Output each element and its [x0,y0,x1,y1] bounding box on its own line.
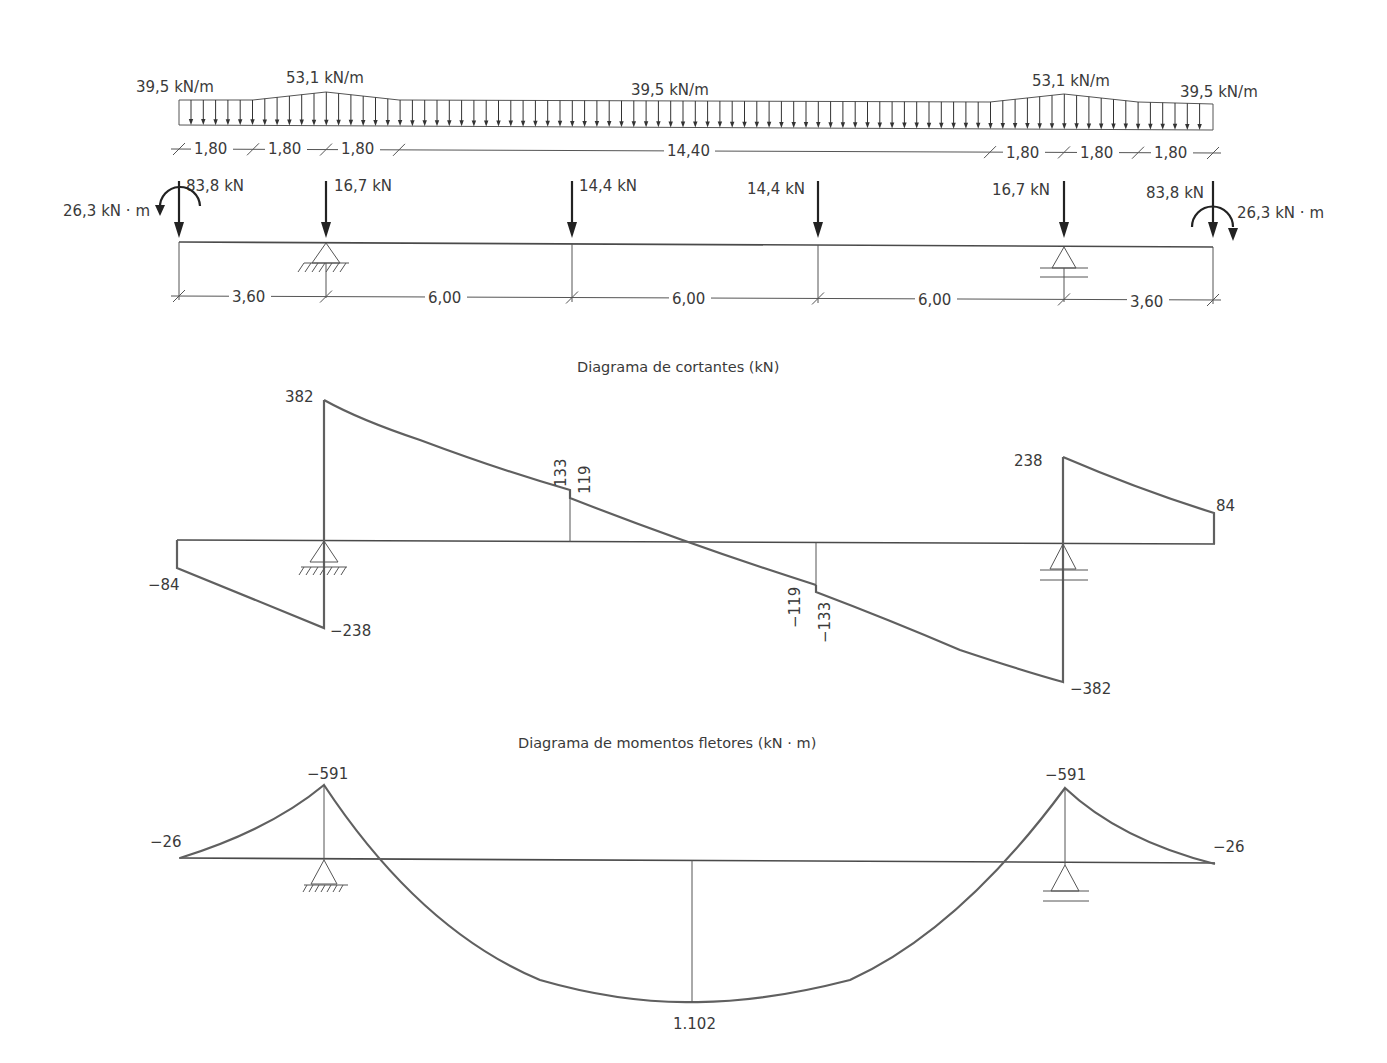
moment-curve [180,785,1215,1002]
shear-curve-right [1063,457,1214,544]
shear-curve-left [177,400,324,628]
shear-value-label: 84 [1216,497,1235,515]
moment-arrow-right-icon [1228,228,1238,241]
moment-label-right: 26,3 kN · m [1237,204,1324,222]
bottom-dimension-label: 3,60 [232,288,265,306]
load-diagram: 39,5 kN/m53,1 kN/m39,5 kN/m53,1 kN/m39,5… [63,69,1324,312]
shear-value-label: 133 [552,458,570,487]
point-load-label: 16,7 kN [992,181,1050,199]
shear-diagram-title: Diagrama de cortantes (kN) [577,359,779,375]
point-load-label: 14,4 kN [579,177,637,195]
shear-value-label: −119 [786,587,804,628]
moment-value-label: −591 [1045,766,1086,784]
shear-value-label: −84 [148,576,180,594]
bottom-dimension-label: 3,60 [1130,293,1163,311]
point-load-label: 16,7 kN [334,177,392,195]
beam-analysis-diagram: 39,5 kN/m53,1 kN/m39,5 kN/m53,1 kN/m39,5… [0,0,1387,1063]
top-dimension-label: 1,80 [268,140,301,158]
moment-diagram-title: Diagrama de momentos fletores (kN · m) [518,735,816,751]
shear-value-label: 119 [576,465,594,494]
shear-diagram: Diagrama de cortantes (kN) 3821331192388… [148,359,1235,698]
moment-value-label: −591 [307,765,348,783]
distributed-load-label: 53,1 kN/m [286,69,364,87]
shear-value-label: 382 [285,388,314,406]
distributed-load-labels: 39,5 kN/m53,1 kN/m39,5 kN/m53,1 kN/m39,5… [136,69,1258,101]
roller-support-icon [1043,865,1089,901]
shear-value-label: −238 [330,622,371,640]
top-dimension-label: 1,80 [1080,144,1113,162]
top-dimension-label: 1,80 [1006,144,1039,162]
moment-arrow-left-icon [155,205,165,216]
shear-value-label: −382 [1070,680,1111,698]
moment-axis [179,858,1215,863]
top-dimension-label: 1,80 [1154,144,1187,162]
load-baseline [179,125,1213,130]
beam-line [179,242,1213,247]
bottom-dimension-label: 6,00 [918,291,951,309]
bottom-dimension-label: 6,00 [672,290,705,308]
moment-diagram: Diagrama de momentos fletores (kN · m) −… [150,735,1245,1033]
shear-curve-mid-2 [816,457,1063,682]
roller-support-icon [1040,247,1088,302]
moment-value-label: −26 [1213,838,1245,856]
point-loads: 83,8 kN16,7 kN14,4 kN14,4 kN16,7 kN83,8 … [174,177,1218,238]
distributed-load-label: 39,5 kN/m [631,81,709,99]
top-dimension-line: 1,801,801,8014,401,801,801,80 [171,139,1221,163]
pinned-support-icon [298,243,349,298]
distributed-load-label: 53,1 kN/m [1032,72,1110,90]
moment-value-label: 1.102 [673,1015,716,1033]
shear-value-label: 238 [1014,452,1043,470]
shear-axis [177,540,1215,544]
pinned-support-icon [303,860,348,892]
moment-value-labels: −591−591−26−261.102 [150,765,1245,1033]
moment-label-left: 26,3 kN · m [63,202,150,220]
top-dimension-label: 1,80 [194,140,227,158]
shear-value-label: −133 [816,602,834,643]
top-dimension-label: 14,40 [667,142,710,160]
point-load-label: 83,8 kN [1146,184,1204,202]
bottom-dimension-label: 6,00 [428,289,461,307]
moment-value-label: −26 [150,833,182,851]
top-dimension-label: 1,80 [341,140,374,158]
distributed-load-label: 39,5 kN/m [1180,83,1258,101]
point-load-label: 14,4 kN [747,180,805,198]
distributed-load-label: 39,5 kN/m [136,78,214,96]
